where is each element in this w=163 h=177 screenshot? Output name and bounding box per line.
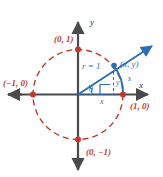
label-point-right: (1, 0) xyxy=(130,102,150,111)
right-angle-marker xyxy=(100,85,110,95)
point-bottom xyxy=(75,137,81,143)
label-leg-y: y xyxy=(116,79,120,87)
y-axis-label: y xyxy=(90,18,94,27)
point-right xyxy=(120,92,126,98)
label-point-bottom: (0, −1) xyxy=(86,148,111,157)
x-axis-label: x xyxy=(139,81,143,90)
label-radius: r = 1 xyxy=(82,62,101,71)
unit-circle-figure: y x (0, 1) (−1, 0) (0, −1) (1, 0) r = 1 … xyxy=(0,0,163,177)
label-angle-theta: θ xyxy=(89,86,93,94)
label-point-top: (0, 1) xyxy=(54,35,74,44)
point-top xyxy=(75,47,81,53)
label-arc-s: s xyxy=(128,75,131,83)
label-terminal-point: (x, y) xyxy=(120,60,138,69)
label-point-left: (−1, 0) xyxy=(3,79,28,88)
point-terminal xyxy=(111,63,117,69)
point-left xyxy=(30,92,36,98)
label-leg-x: x xyxy=(100,98,104,106)
